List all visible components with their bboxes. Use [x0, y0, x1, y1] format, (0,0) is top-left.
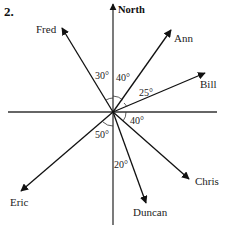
label-eric: Eric: [10, 196, 28, 208]
angle-label-3: 40°: [130, 115, 144, 126]
angle-label-0: 30°: [95, 70, 109, 81]
person-labels: FredAnnBillChrisDuncanEric: [10, 23, 219, 218]
compass-bearing-diagram: 2. North 30°40°25°40°50°20° FredAnnBillC…: [0, 0, 230, 227]
arrow-eric: [21, 112, 113, 191]
angle-label-5: 20°: [114, 159, 128, 170]
arc-east-chris: [123, 112, 126, 121]
question-number: 2.: [4, 4, 14, 19]
label-duncan: Duncan: [133, 206, 168, 218]
north-label: North: [118, 4, 145, 15]
label-bill: Bill: [200, 78, 217, 90]
arc-north-fred: [106, 98, 113, 100]
arc-south-eric: [103, 122, 113, 126]
angle-label-2: 25°: [139, 87, 153, 98]
angle-label-1: 40°: [116, 72, 130, 83]
label-fred: Fred: [36, 23, 57, 35]
label-ann: Ann: [174, 32, 193, 44]
angle-label-4: 50°: [95, 129, 109, 140]
label-chris: Chris: [195, 175, 219, 187]
